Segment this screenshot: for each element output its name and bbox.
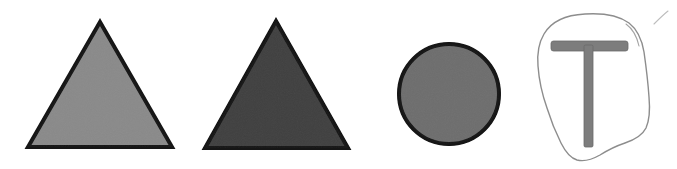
gray-t-stem	[584, 45, 593, 147]
shapes-canvas-svg	[0, 0, 677, 169]
shapes-figure	[0, 0, 677, 169]
